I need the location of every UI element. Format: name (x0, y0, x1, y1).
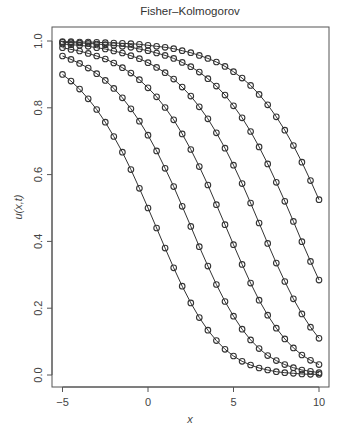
chart-title: Fisher–Kolmogorov (140, 5, 240, 17)
y-tick-label: 0.6 (32, 167, 44, 182)
x-axis: −50510 (56, 387, 325, 408)
y-tick-label: 0.0 (32, 367, 44, 382)
series-layer (60, 39, 322, 377)
data-point-marker (316, 362, 322, 368)
y-tick-label: 0.4 (32, 234, 44, 249)
y-tick-label: 1.0 (32, 33, 44, 48)
y-axis-label: u(x,t) (12, 194, 24, 219)
x-tick-label: −5 (56, 396, 69, 408)
series-t-0 (60, 72, 322, 378)
data-point-marker (316, 277, 322, 283)
fisher-kolmogorov-chart: Fisher–Kolmogorov −50510 0.00.20.40.60.8… (0, 0, 346, 437)
y-axis: 0.00.20.40.60.81.0 (32, 33, 52, 382)
series-line (63, 48, 320, 365)
series-line (63, 74, 320, 374)
y-tick-label: 0.8 (32, 100, 44, 115)
x-tick-label: 5 (230, 396, 236, 408)
series-t-3 (60, 41, 322, 341)
series-line (63, 42, 320, 200)
x-tick-label: 10 (313, 396, 325, 408)
x-tick-label: 0 (145, 396, 151, 408)
data-point-marker (60, 72, 66, 78)
y-tick-label: 0.2 (32, 301, 44, 316)
series-t-1 (60, 53, 322, 375)
x-axis-label: x (186, 413, 193, 425)
series-line (63, 42, 320, 280)
series-line (63, 56, 320, 373)
